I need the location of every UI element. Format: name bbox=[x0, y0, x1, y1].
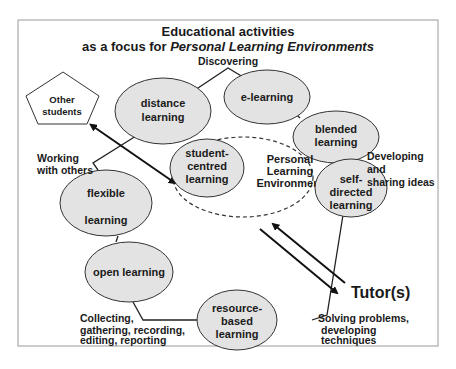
node-distance-learning: distance learning bbox=[115, 78, 211, 144]
svg-text:student-: student- bbox=[185, 147, 229, 159]
svg-text:Learning: Learning bbox=[267, 165, 313, 177]
svg-text:learning: learning bbox=[216, 328, 259, 340]
activity-discovering: Discovering bbox=[198, 55, 258, 67]
svg-text:blended: blended bbox=[315, 123, 357, 135]
node-resource-based-learning: resource- based learning bbox=[197, 290, 277, 350]
svg-text:Collecting,: Collecting, bbox=[80, 312, 134, 324]
svg-text:self-: self- bbox=[340, 173, 363, 185]
svg-text:Working: Working bbox=[37, 152, 79, 164]
svg-text:learning: learning bbox=[85, 214, 128, 226]
diagram-title-line1: Educational activities bbox=[162, 24, 295, 39]
tutors-label: Tutor(s) bbox=[351, 284, 410, 301]
node-e-learning: e-learning bbox=[224, 70, 310, 124]
node-open-learning: open learning bbox=[85, 242, 173, 302]
svg-text:techniques: techniques bbox=[321, 334, 377, 346]
svg-text:centred: centred bbox=[187, 160, 227, 172]
node-student-centred-learning: student- centred learning bbox=[170, 139, 244, 197]
svg-text:based: based bbox=[221, 315, 253, 327]
svg-text:open learning: open learning bbox=[93, 266, 165, 278]
svg-text:Environment: Environment bbox=[256, 177, 324, 189]
svg-text:Developing: Developing bbox=[367, 150, 424, 162]
svg-text:Personal: Personal bbox=[267, 153, 313, 165]
other-students-label-1: Other bbox=[49, 94, 75, 105]
svg-text:editing, reporting: editing, reporting bbox=[80, 334, 166, 346]
svg-text:e-learning: e-learning bbox=[241, 91, 294, 103]
svg-text:learning: learning bbox=[315, 136, 358, 148]
svg-text:sharing ideas: sharing ideas bbox=[367, 176, 435, 188]
svg-text:resource-: resource- bbox=[212, 302, 262, 314]
diagram-canvas: Educational activities as a focus for Pe… bbox=[0, 0, 456, 369]
svg-text:with others: with others bbox=[36, 164, 93, 176]
diagram-stage: Educational activities as a focus for Pe… bbox=[0, 0, 456, 369]
diagram-title-line2: as a focus for Personal Learning Environ… bbox=[82, 39, 374, 54]
svg-text:and: and bbox=[367, 163, 386, 175]
svg-text:distance: distance bbox=[141, 97, 186, 109]
svg-text:learning: learning bbox=[186, 173, 229, 185]
svg-text:learning: learning bbox=[330, 199, 373, 211]
other-students-label-2: students bbox=[42, 106, 82, 117]
svg-text:directed: directed bbox=[330, 186, 373, 198]
node-flexible-learning: flexible learning bbox=[60, 170, 152, 236]
svg-text:flexible: flexible bbox=[87, 187, 125, 199]
svg-text:learning: learning bbox=[142, 111, 185, 123]
svg-text:Solving problems,: Solving problems, bbox=[318, 312, 409, 324]
